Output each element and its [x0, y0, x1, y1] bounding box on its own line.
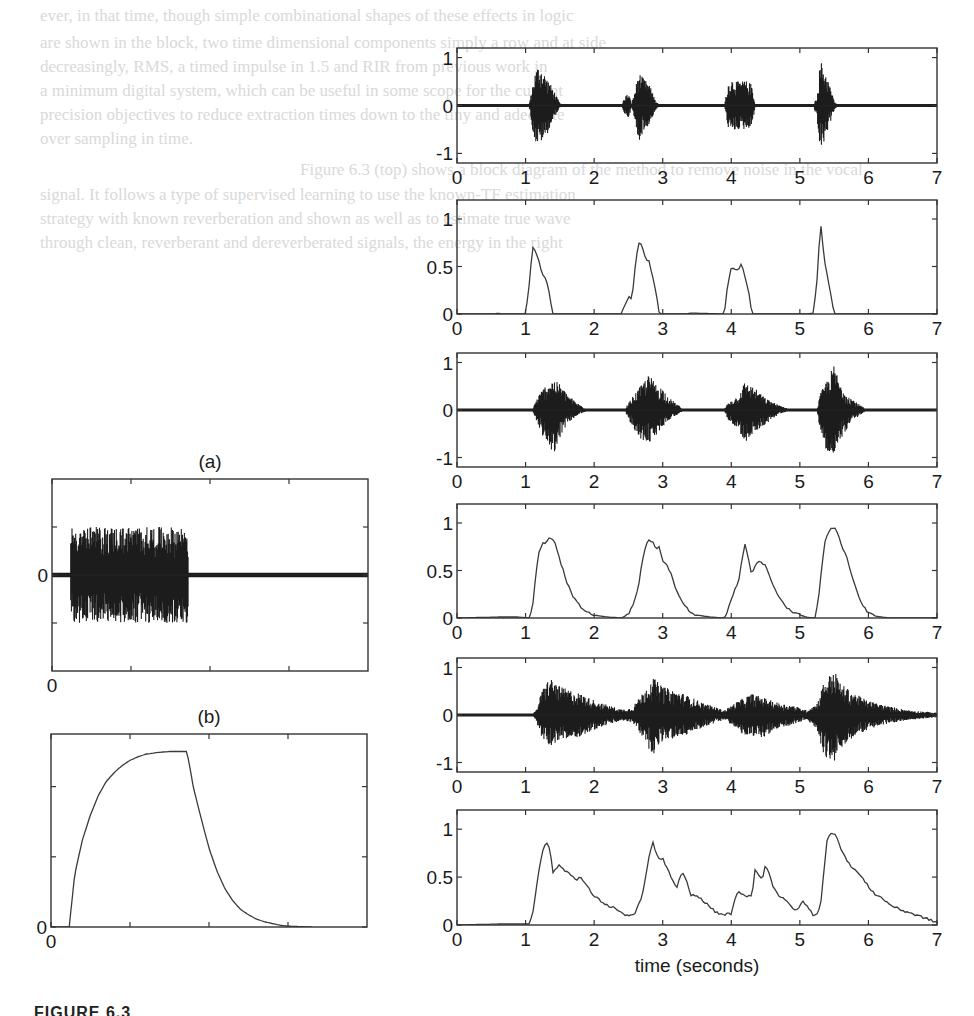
- x-tick-label: 7: [932, 318, 943, 339]
- plot-area: [457, 367, 937, 453]
- y-tick-label: 0: [36, 917, 47, 938]
- envelope-trace: [457, 226, 937, 314]
- x-tick-label: 4: [726, 471, 737, 492]
- x-tick-label: 0: [47, 675, 58, 696]
- x-tick-label: 1: [520, 776, 531, 797]
- x-tick-label: 3: [657, 471, 668, 492]
- x-tick-label: 0: [452, 471, 463, 492]
- x-tick-label: 5: [795, 318, 806, 339]
- y-tick-label: 0.5: [427, 867, 453, 888]
- x-axis-label: time (seconds): [635, 955, 760, 976]
- waveform-trace: [457, 674, 937, 761]
- chart-right-4: 0123456700.51: [427, 504, 943, 643]
- y-tick-label: 0.5: [427, 257, 453, 278]
- y-tick-label: -1: [436, 753, 453, 774]
- x-tick-label: 6: [863, 318, 874, 339]
- chart-right-5: 01234567-101: [436, 658, 942, 798]
- axes-frame: [457, 200, 937, 314]
- y-tick-label: 1: [442, 209, 453, 230]
- x-tick-label: 0: [452, 622, 463, 643]
- chart-right-6: 0123456700.51time (seconds): [427, 810, 943, 976]
- y-tick-label: 0: [442, 915, 453, 936]
- y-tick-label: 1: [442, 658, 453, 679]
- x-tick-label: 5: [795, 776, 806, 797]
- plot-area: [457, 528, 937, 618]
- x-tick-label: 4: [726, 622, 737, 643]
- x-tick-label: 1: [520, 929, 531, 950]
- x-tick-label: 7: [932, 929, 943, 950]
- figure-caption: FIGURE 6.3: [34, 1004, 131, 1016]
- x-tick-label: 3: [657, 167, 668, 188]
- x-tick-label: 7: [932, 622, 943, 643]
- x-tick-label: 1: [520, 471, 531, 492]
- y-tick-label: 0: [442, 400, 453, 421]
- x-tick-label: 3: [657, 318, 668, 339]
- x-tick-label: 5: [795, 167, 806, 188]
- x-tick-label: 3: [657, 776, 668, 797]
- x-tick-label: 0: [452, 929, 463, 950]
- panel-label-left-a: (a): [198, 451, 221, 472]
- figure: 01234567-1010123456700.5101234567-101012…: [0, 0, 974, 1000]
- x-tick-label: 6: [863, 776, 874, 797]
- x-tick-label: 1: [520, 318, 531, 339]
- y-tick-label: 0: [442, 705, 453, 726]
- chart-right-3: 01234567-101: [436, 353, 942, 493]
- x-tick-label: 7: [932, 471, 943, 492]
- plot-area: [457, 833, 937, 925]
- x-tick-label: 2: [589, 776, 600, 797]
- x-tick-label: 4: [726, 929, 737, 950]
- chart-left-a: 00(a): [37, 451, 368, 696]
- x-tick-label: 5: [795, 929, 806, 950]
- x-tick-label: 0: [452, 318, 463, 339]
- x-tick-label: 0: [452, 776, 463, 797]
- x-tick-label: 7: [932, 167, 943, 188]
- x-tick-label: 3: [657, 622, 668, 643]
- x-tick-label: 0: [452, 167, 463, 188]
- waveform-trace: [457, 63, 937, 145]
- chart-right-2: 0123456700.51: [427, 200, 943, 339]
- chart-left-b: 00(b): [36, 706, 367, 952]
- axes-frame: [457, 810, 937, 925]
- x-tick-label: 2: [589, 929, 600, 950]
- plot-area: [457, 63, 937, 145]
- panel-label-left-b: (b): [197, 706, 220, 727]
- x-tick-label: 6: [863, 929, 874, 950]
- x-tick-label: 1: [520, 622, 531, 643]
- chart-right-1: 01234567-101: [436, 48, 942, 188]
- plot-area: [457, 226, 937, 314]
- x-tick-label: 0: [46, 931, 57, 952]
- plot-area: [52, 527, 368, 623]
- x-tick-label: 6: [863, 167, 874, 188]
- x-tick-label: 3: [657, 929, 668, 950]
- y-tick-label: 0: [442, 304, 453, 325]
- x-tick-label: 4: [726, 318, 737, 339]
- y-tick-label: 1: [442, 513, 453, 534]
- envelope-trace: [51, 752, 312, 928]
- y-tick-label: -1: [436, 143, 453, 164]
- plot-area: [457, 674, 937, 761]
- x-tick-label: 5: [795, 622, 806, 643]
- axes-frame: [51, 734, 367, 927]
- x-tick-label: 6: [863, 471, 874, 492]
- envelope-trace: [457, 528, 937, 618]
- y-tick-label: 0: [442, 608, 453, 629]
- envelope-trace: [457, 833, 937, 925]
- x-tick-label: 4: [726, 776, 737, 797]
- x-tick-label: 7: [932, 776, 943, 797]
- x-tick-label: 2: [589, 167, 600, 188]
- x-tick-label: 2: [589, 622, 600, 643]
- x-tick-label: 2: [589, 471, 600, 492]
- x-tick-label: 5: [795, 471, 806, 492]
- y-tick-label: 1: [442, 48, 453, 69]
- y-tick-label: 0: [442, 96, 453, 117]
- axes-frame: [457, 504, 937, 618]
- plot-area: [51, 752, 312, 928]
- y-tick-label: -1: [436, 448, 453, 469]
- y-tick-label: 1: [442, 353, 453, 374]
- y-tick-label: 0: [37, 565, 48, 586]
- y-tick-label: 1: [442, 819, 453, 840]
- x-tick-label: 6: [863, 622, 874, 643]
- y-tick-label: 0.5: [427, 561, 453, 582]
- x-tick-label: 4: [726, 167, 737, 188]
- x-tick-label: 1: [520, 167, 531, 188]
